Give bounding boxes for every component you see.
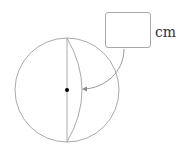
pointer-arrow xyxy=(84,49,124,89)
meridian-curve xyxy=(67,38,82,142)
answer-input-box[interactable] xyxy=(105,12,151,48)
unit-label: cm xyxy=(155,24,176,40)
center-dot xyxy=(65,88,69,92)
arrowhead-icon xyxy=(82,87,87,92)
